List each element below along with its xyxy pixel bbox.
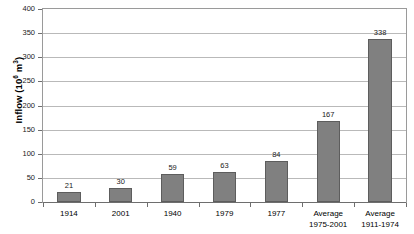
y-tick-mark-0	[38, 202, 42, 203]
plot-area	[42, 8, 407, 203]
gridline-350	[43, 33, 406, 34]
x-tick-mark-5	[302, 203, 303, 207]
y-tick-mark-100	[38, 154, 42, 155]
y-tick-label-0: 0	[0, 197, 35, 206]
x-tick-mark-4	[250, 203, 251, 207]
x-tick-mark-2	[147, 203, 148, 207]
bar-3[interactable]	[213, 172, 236, 202]
gridline-300	[43, 57, 406, 58]
bar-value-label-0: 21	[43, 181, 95, 190]
bar-value-label-2: 59	[147, 163, 199, 172]
x-tick-mark-0	[43, 203, 44, 207]
bar-0[interactable]	[57, 192, 80, 202]
y-tick-label-400: 400	[0, 4, 35, 13]
gridline-150	[43, 130, 406, 131]
gridline-250	[43, 81, 406, 82]
bar-value-label-4: 84	[250, 150, 302, 159]
x-category-label-2: 1940	[147, 209, 199, 220]
bar-chart: Inflow (106 m3) 050100150200250300350400…	[0, 0, 414, 234]
bar-4[interactable]	[265, 161, 288, 202]
bar-1[interactable]	[109, 188, 132, 202]
x-category-label-4: 1977	[250, 209, 302, 220]
y-tick-label-200: 200	[0, 101, 35, 110]
x-category-label-5: Average 1975-2001	[302, 209, 354, 230]
y-tick-mark-250	[38, 81, 42, 82]
bar-5[interactable]	[317, 121, 340, 202]
y-tick-label-150: 150	[0, 125, 35, 134]
x-tick-mark-1	[95, 203, 96, 207]
x-category-label-3: 1979	[199, 209, 251, 220]
bar-value-label-6: 338	[354, 28, 406, 37]
x-tick-mark-end	[406, 203, 407, 207]
x-tick-mark-3	[199, 203, 200, 207]
bar-2[interactable]	[161, 174, 184, 202]
x-tick-mark-6	[354, 203, 355, 207]
x-category-label-1: 2001	[95, 209, 147, 220]
x-category-label-0: 1914	[43, 209, 95, 220]
y-tick-label-300: 300	[0, 52, 35, 61]
x-category-label-6: Average 1911-1974	[354, 209, 406, 230]
bar-value-label-5: 167	[302, 110, 354, 119]
y-tick-mark-350	[38, 33, 42, 34]
bar-value-label-3: 63	[199, 161, 251, 170]
y-tick-label-350: 350	[0, 28, 35, 37]
bar-value-label-1: 30	[95, 177, 147, 186]
y-tick-label-50: 50	[0, 173, 35, 182]
y-tick-label-100: 100	[0, 149, 35, 158]
y-axis-title-mid: m	[13, 64, 24, 75]
y-tick-mark-400	[38, 9, 42, 10]
y-tick-mark-200	[38, 106, 42, 107]
y-tick-mark-300	[38, 57, 42, 58]
bar-6[interactable]	[368, 39, 391, 202]
y-tick-label-250: 250	[0, 76, 35, 85]
gridline-0	[43, 202, 406, 203]
y-tick-mark-50	[38, 178, 42, 179]
gridline-100	[43, 154, 406, 155]
y-tick-mark-150	[38, 130, 42, 131]
y-axis-title: Inflow (106 m3)	[12, 20, 24, 160]
gridline-200	[43, 106, 406, 107]
